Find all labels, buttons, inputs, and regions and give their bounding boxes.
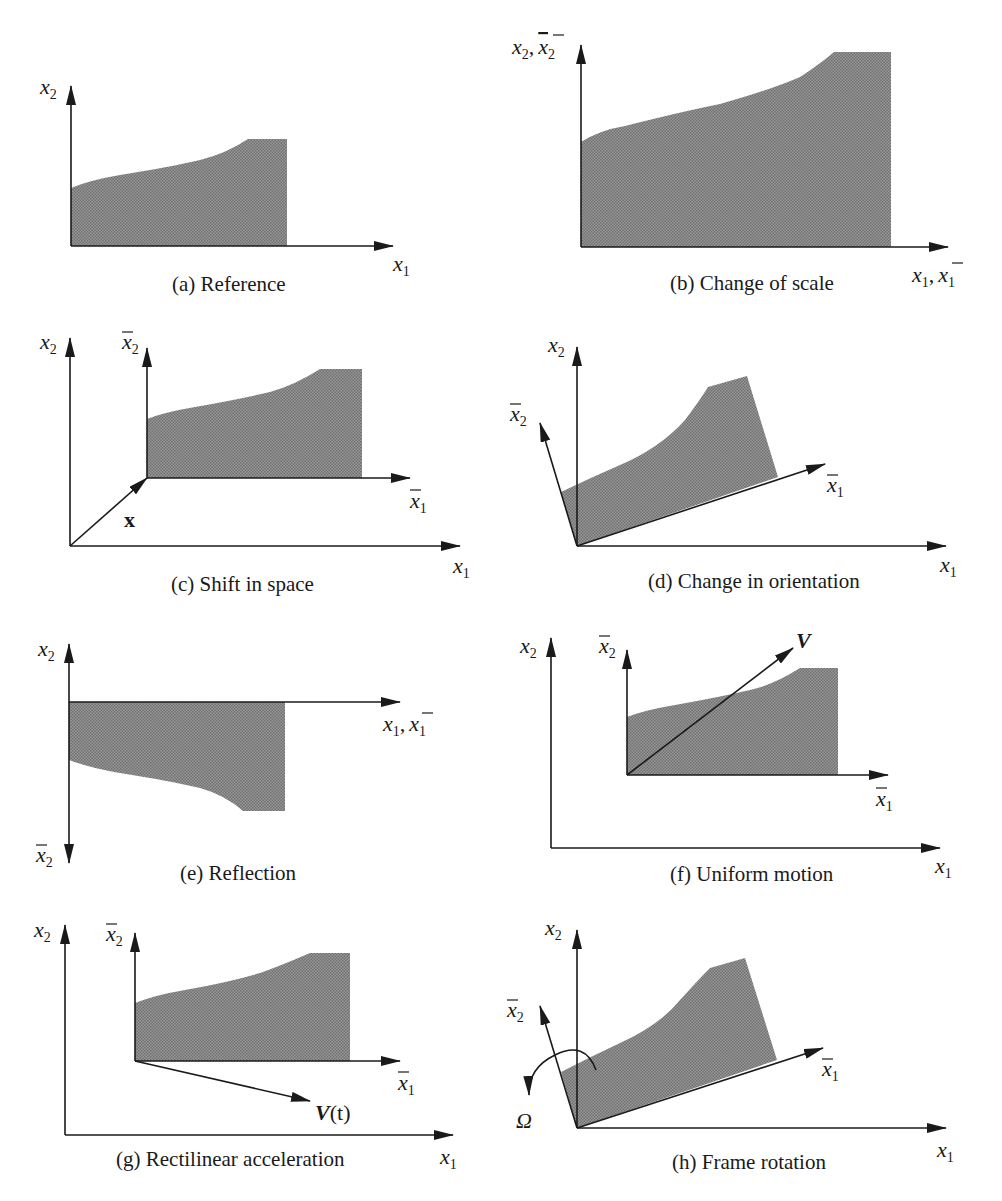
caption-c: (c) Shift in space bbox=[171, 572, 314, 596]
caption-b: (b) Change of scale bbox=[670, 271, 834, 295]
panel-f-uniform-motion: x2 x2 x1 x1 V (f) Uniform motion bbox=[519, 628, 952, 886]
x2bar-label: x2 bbox=[598, 633, 616, 661]
panel-g-rectilinear-acceleration: x2 x2 x1 x1 V(t) (g) Rectilinear acceler… bbox=[33, 917, 457, 1172]
caption-d: (d) Change in orientation bbox=[648, 569, 860, 593]
panel-c-shift-in-space: x2 x2 x1 x1 x (c) Shift in space bbox=[39, 329, 470, 596]
x2-label: x2 bbox=[39, 329, 57, 357]
x1-label: x1 bbox=[392, 251, 410, 279]
x1bar-label: x1 bbox=[397, 1070, 415, 1098]
caption-a: (a) Reference bbox=[172, 272, 286, 296]
x1-x1bar-label: x1,x1 bbox=[382, 711, 426, 739]
x1-label: x1 bbox=[939, 552, 957, 580]
acceleration-vector bbox=[135, 1061, 310, 1101]
x2bar-label: x2 bbox=[506, 997, 524, 1025]
scaled-shape bbox=[581, 52, 891, 247]
x2bar-label: x2 bbox=[105, 921, 123, 949]
panel-b-change-of-scale: x2,x2 x1,x1 (b) Change of scale bbox=[511, 34, 963, 295]
reference-shape bbox=[71, 139, 287, 246]
shift-vector bbox=[70, 478, 147, 546]
x1bar-label: x1 bbox=[821, 1056, 839, 1084]
x2-label: x2 bbox=[547, 332, 565, 360]
caption-g: (g) Rectilinear acceleration bbox=[116, 1147, 345, 1171]
x1-x1bar-label: x1,x1 bbox=[911, 262, 955, 290]
x1-label: x1 bbox=[934, 853, 952, 881]
shifted-shape bbox=[147, 369, 362, 478]
accelerating-shape bbox=[135, 953, 350, 1061]
x2bar-axis bbox=[540, 423, 577, 546]
x2-x2bar-label: x2,x2 bbox=[511, 34, 555, 62]
x2bar-label: x2 bbox=[509, 401, 527, 429]
panel-d-change-in-orientation: x2 x2 x1 x1 (d) Change in orientation bbox=[509, 332, 957, 593]
x2-label: x2 bbox=[33, 917, 51, 945]
caption-e: (e) Reflection bbox=[180, 861, 297, 885]
x1-label: x1 bbox=[936, 1137, 954, 1165]
x2-label: x2 bbox=[544, 915, 562, 943]
x2-label: x2 bbox=[37, 636, 55, 664]
x1-label: x1 bbox=[452, 553, 470, 581]
x2bar-label: x2 bbox=[121, 329, 139, 357]
caption-f: (f) Uniform motion bbox=[670, 862, 834, 886]
panel-h-frame-rotation: x2 x2 x1 x1 Ω (h) Frame rotation bbox=[506, 915, 954, 1174]
x1bar-label: x1 bbox=[409, 488, 427, 516]
velocity-label: V bbox=[796, 628, 813, 653]
rotating-shape bbox=[561, 958, 777, 1128]
frame-transformations-figure: x2 x1 (a) Reference x2,x2 x1,x1 (b) Chan… bbox=[0, 0, 1002, 1201]
reflected-shape bbox=[69, 702, 285, 811]
x1bar-label: x1 bbox=[875, 786, 893, 814]
rotated-shape bbox=[561, 376, 778, 546]
caption-h: (h) Frame rotation bbox=[672, 1150, 826, 1174]
x1-label: x1 bbox=[439, 1144, 457, 1172]
acceleration-label: V(t) bbox=[315, 1100, 350, 1125]
x2bar-label: x2 bbox=[35, 842, 53, 870]
shift-vector-label: x bbox=[124, 507, 135, 532]
omega-label: Ω bbox=[516, 1108, 532, 1133]
x1bar-label: x1 bbox=[826, 472, 844, 500]
x2-label: x2 bbox=[519, 633, 537, 661]
panel-a-reference: x2 x1 (a) Reference bbox=[39, 74, 410, 296]
panel-e-reflection: x2 x2 x1,x1 (e) Reflection bbox=[35, 636, 433, 885]
x2-label: x2 bbox=[39, 74, 57, 102]
moving-shape bbox=[627, 668, 838, 775]
